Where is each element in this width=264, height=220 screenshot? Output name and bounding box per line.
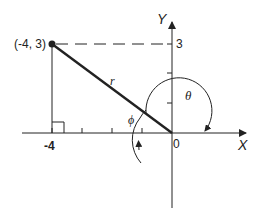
point-label: (-4, 3) xyxy=(14,37,46,51)
phi-arc xyxy=(132,110,146,163)
origin-label: 0 xyxy=(173,137,180,151)
x-axis-ticks xyxy=(52,128,142,133)
radius-label: r xyxy=(110,74,115,88)
theta-arc xyxy=(146,78,212,131)
theta-label: θ xyxy=(185,88,192,103)
x-tick-label-neg4: -4 xyxy=(44,139,55,153)
point-marker xyxy=(49,41,56,48)
y-axis-label: Y xyxy=(157,11,168,27)
phi-arc-arrow xyxy=(139,141,140,150)
right-angle-marker xyxy=(52,122,64,133)
diagram-canvas: (-4, 3) 3 -4 0 X Y r θ ϕ xyxy=(0,0,264,220)
phi-label: ϕ xyxy=(128,113,134,127)
x-axis-label: X xyxy=(237,137,248,153)
y-axis-ticks xyxy=(167,44,172,103)
y-tick-label-3: 3 xyxy=(176,37,183,51)
